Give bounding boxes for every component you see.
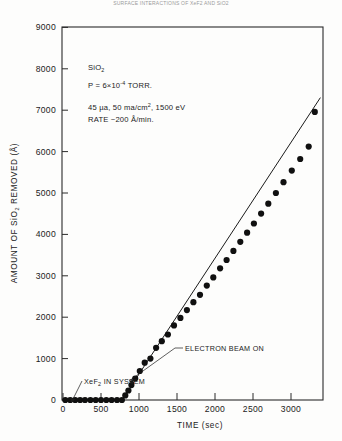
data-point <box>217 265 223 271</box>
data-point <box>153 345 159 351</box>
annotation-beam-prefix: 45 µa, 50 ma/cm <box>88 103 148 112</box>
callout-xef2-label: XeF2 IN SYSTEM <box>84 377 145 387</box>
data-point <box>265 201 271 207</box>
data-point <box>197 292 203 298</box>
data-point <box>171 322 177 328</box>
annotation-etch-rate: RATE ~200 Å/min. <box>88 115 154 124</box>
data-point <box>230 248 236 254</box>
callout-electron-beam-on-label: ELECTRON BEAM ON <box>185 344 264 353</box>
data-point <box>190 299 196 305</box>
annotation-pressure-suffix: TORR. <box>126 81 153 90</box>
annotation-sample-prefix: SiO <box>88 63 101 72</box>
data-point <box>98 397 104 403</box>
data-points <box>62 109 318 403</box>
data-point <box>165 331 171 337</box>
y-tick-label-9000: 9000 <box>36 22 56 32</box>
y-tick-label-0: 0 <box>51 395 56 405</box>
fit-line-group <box>64 98 320 400</box>
data-point <box>109 397 115 403</box>
x-tick-label-1500: 1500 <box>167 404 187 414</box>
y-tick-label-7000: 7000 <box>36 105 56 115</box>
fit-segment-etch-slope <box>122 98 320 400</box>
x-tick-label-0: 0 <box>60 404 65 414</box>
x-axis-title: TIME (sec) <box>177 421 223 430</box>
data-point <box>87 397 93 403</box>
x-tick-label-2000: 2000 <box>205 404 225 414</box>
callout-xef2-suffix: IN SYSTEM <box>101 377 145 386</box>
chart-canvas: 0 1000 2000 3000 4000 5000 6000 7000 800… <box>0 0 342 441</box>
data-point <box>210 274 216 280</box>
x-tick-label-500: 500 <box>93 404 108 414</box>
y-tick-label-3000: 3000 <box>36 271 56 281</box>
x-axis-tick-labels: 0 500 1000 1500 2000 2500 3000 <box>60 404 301 414</box>
y-axis-ticks <box>62 27 68 400</box>
annotation-sample: SiO2 <box>88 63 104 73</box>
data-point <box>125 387 131 393</box>
y-tick-label-2000: 2000 <box>36 312 56 322</box>
data-point <box>184 307 190 313</box>
annotation-pressure: P = 6×10-4 TORR. <box>88 80 152 90</box>
data-point <box>312 109 318 115</box>
y-tick-label-8000: 8000 <box>36 64 56 74</box>
data-point <box>244 230 250 236</box>
svg-text:AMOUNT OF SiO2 REMOVED (Å): AMOUNT OF SiO2 REMOVED (Å) <box>9 143 20 283</box>
data-point <box>280 179 286 185</box>
data-point <box>289 168 295 174</box>
y-axis-tick-labels: 0 1000 2000 3000 4000 5000 6000 7000 800… <box>36 22 56 405</box>
y-tick-label-1000: 1000 <box>36 354 56 364</box>
data-point <box>237 239 243 245</box>
y-axis-title-prefix: AMOUNT OF SiO <box>10 210 19 283</box>
data-point <box>204 283 210 289</box>
x-tick-label-2500: 2500 <box>243 404 263 414</box>
data-point <box>297 156 303 162</box>
data-point <box>273 190 279 196</box>
y-tick-label-5000: 5000 <box>36 188 56 198</box>
data-point <box>251 220 257 226</box>
data-point <box>147 356 153 362</box>
annotation-pressure-prefix: P = 6×10 <box>88 81 120 90</box>
y-axis-title-suffix: REMOVED (Å) <box>9 143 19 207</box>
data-point <box>177 315 183 321</box>
y-tick-label-6000: 6000 <box>36 147 56 157</box>
x-tick-label-1000: 1000 <box>129 404 149 414</box>
annotation-sample-sub: 2 <box>101 67 104 73</box>
data-point <box>93 397 99 403</box>
callout-xef2-prefix: XeF <box>84 377 98 386</box>
y-axis-title: AMOUNT OF SiO2 REMOVED (Å) <box>9 143 20 283</box>
data-point <box>306 144 312 150</box>
data-point <box>142 360 148 366</box>
data-point <box>258 211 264 217</box>
data-point <box>159 338 165 344</box>
annotation-beam-suffix: , 1500 eV <box>151 103 186 112</box>
figure-panel: SURFACE INTERACTIONS OF XeF2 AND SiO2 0 … <box>0 0 342 441</box>
callout-electron-beam-on: ELECTRON BEAM ON <box>129 344 264 384</box>
y-tick-label-4000: 4000 <box>36 229 56 239</box>
data-point <box>224 257 230 263</box>
data-point <box>82 397 88 403</box>
data-point <box>103 397 109 403</box>
x-tick-label-3000: 3000 <box>281 404 301 414</box>
annotation-beam-conditions: 45 µa, 50 ma/cm2, 1500 eV <box>88 102 186 112</box>
